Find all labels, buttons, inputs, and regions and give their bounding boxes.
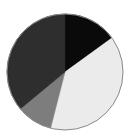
pie-slices — [7, 14, 123, 130]
pie-chart — [0, 0, 138, 140]
